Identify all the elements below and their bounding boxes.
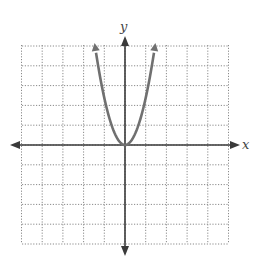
y-axis-bottom-arrow-icon xyxy=(121,246,129,256)
x-axis-right-arrow-icon xyxy=(230,141,240,149)
x-axis-label: x xyxy=(242,137,250,152)
x-axis-left-arrow-icon xyxy=(10,141,20,149)
y-axis-label: y xyxy=(119,19,128,34)
curve-right-arrow-icon xyxy=(150,43,158,52)
parabola-chart: x y xyxy=(0,0,263,271)
axes: x y xyxy=(10,19,250,256)
curve-left-arrow-icon xyxy=(92,43,100,52)
y-axis-top-arrow-icon xyxy=(121,36,129,46)
